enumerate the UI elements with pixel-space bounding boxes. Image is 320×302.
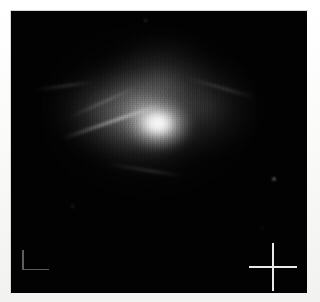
astronomical-image-frame[interactable]	[11, 11, 307, 293]
viewer-plate: Grayscale astronomical image of a diffus…	[0, 0, 320, 302]
sky-background	[11, 11, 307, 293]
image-alt-text: Grayscale astronomical image of a diffus…	[0, 0, 1, 1]
